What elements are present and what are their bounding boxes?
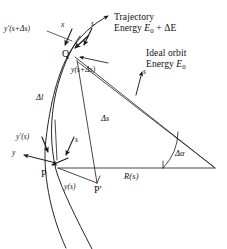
label-axis-s-at-q: s — [91, 20, 94, 29]
label-axis-x-at-q: x — [61, 21, 64, 30]
trajectory-caption: Trajectory Energy E0 + ΔE — [114, 12, 176, 35]
leader-y-prime-q — [47, 31, 72, 41]
label-delta-s: Δs — [101, 113, 110, 123]
energy-delta-trajectory: + ΔE — [154, 23, 177, 33]
label-axis-s-at-p: s — [75, 136, 78, 145]
energy-sub-ideal: 0 — [182, 63, 186, 70]
label-axis-s-ideal: s — [143, 68, 146, 77]
pprime-connector — [97, 176, 100, 183]
point-label-q: Q — [62, 48, 69, 60]
trajectory-curve — [45, 16, 108, 248]
trajectory-title: Trajectory — [114, 12, 176, 23]
ideal-orbit-energy: Energy E0 — [146, 59, 186, 71]
trajectory-energy: Energy E0 + ΔE — [114, 23, 176, 35]
label-delta-l: Δl — [36, 92, 44, 102]
vector-vertical-at-p — [55, 120, 57, 160]
q-secondary-line — [78, 62, 214, 167]
p-to-pprime-line — [58, 168, 97, 183]
vector-s-ideal — [136, 72, 142, 95]
vector-y-at-p — [24, 155, 56, 163]
label-y-prime-s-plus-delta-s: y'(s+Δs) — [4, 25, 30, 34]
vector-x-at-q — [65, 29, 72, 45]
physics-diagram-trajectory-ideal-orbit: Trajectory Energy E0 + ΔE Ideal orbit En… — [0, 0, 227, 249]
point-label-p-prime: P' — [94, 184, 102, 196]
vector-q-to-ideal — [80, 57, 108, 63]
label-axis-y-at-p: y — [12, 149, 15, 158]
ideal-orbit-title: Ideal orbit — [146, 48, 186, 59]
label-y-prime-s: y'(s) — [16, 133, 29, 142]
label-delta-alpha: Δα — [175, 148, 185, 158]
delta-s-chord — [77, 60, 97, 183]
label-y-s: y(s) — [64, 183, 76, 192]
vector-s-at-p — [66, 137, 74, 155]
label-y-s-plus-delta-s: y(s+Δs) — [71, 66, 95, 75]
diagram-canvas — [0, 0, 227, 249]
point-label-p: P — [41, 168, 47, 180]
label-radius-r-s: R(s) — [124, 171, 139, 181]
ideal-orbit-caption: Ideal orbit Energy E0 — [146, 48, 186, 71]
